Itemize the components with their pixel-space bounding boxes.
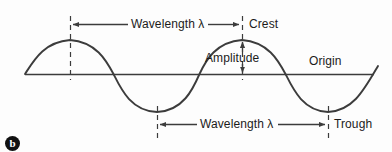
sine-wave-curve: [25, 40, 378, 112]
wavelength-top-label: Wavelength λ: [131, 18, 204, 30]
origin-label: Origin: [309, 55, 342, 67]
trough-label: Trough: [334, 118, 372, 130]
wave-diagram-figure: Wavelength λ Crest Amplitude Origin Wave…: [0, 0, 392, 152]
crest-label: Crest: [249, 18, 278, 30]
panel-badge-b: b: [5, 136, 20, 151]
amplitude-label: Amplitude: [205, 52, 259, 64]
wavelength-bottom-label: Wavelength λ: [200, 118, 273, 130]
